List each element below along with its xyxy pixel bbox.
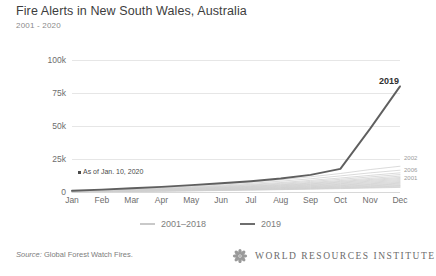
x-axis-ticks: JanFebMarAprMayJunJulAugSepOctNovDec: [72, 195, 400, 209]
y-axis-tick-label: 100k: [26, 55, 66, 65]
y-axis-tick-label: 50k: [26, 121, 66, 131]
series-end-label-2006: 2006: [404, 167, 417, 173]
source-body: Global Forest Watch Fires.: [42, 250, 133, 259]
legend-swatch-icon: [140, 223, 155, 225]
as-of-annotation: As of Jan. 10, 2020: [78, 168, 143, 175]
wri-rosette-icon: [232, 248, 248, 264]
gridline: [72, 192, 400, 193]
y-axis-ticks: 025k50k75k100k: [26, 60, 66, 192]
source-note: Source: Global Forest Watch Fires.: [16, 250, 133, 259]
chart-legend: 2001–20182019: [0, 219, 421, 229]
x-axis-tick-label: Dec: [380, 195, 420, 205]
series-end-label-2002: 2002: [404, 155, 417, 161]
y-axis-tick-label: 25k: [26, 154, 66, 164]
page-title: Fire Alerts in New South Wales, Australi…: [16, 4, 247, 18]
legend-label: 2001–2018: [161, 219, 206, 229]
legend-item-2001–2018[interactable]: 2001–2018: [140, 219, 206, 229]
annotation-marker-icon: [78, 171, 81, 174]
annotation-label: As of Jan. 10, 2020: [83, 168, 143, 175]
wri-logo: WORLD RESOURCES INSTITUTE: [232, 248, 436, 264]
wri-wordmark: WORLD RESOURCES INSTITUTE: [255, 251, 436, 261]
chart-subtitle: 2001 - 2020: [16, 21, 61, 30]
series-end-label-2001: 2001: [404, 175, 417, 181]
legend-label: 2019: [261, 219, 281, 229]
legend-swatch-icon: [240, 223, 255, 225]
y-axis-tick-label: 75k: [26, 88, 66, 98]
legend-item-2019[interactable]: 2019: [240, 219, 281, 229]
source-prefix: Source:: [16, 250, 42, 259]
series-label-2019: 2019: [379, 76, 399, 86]
